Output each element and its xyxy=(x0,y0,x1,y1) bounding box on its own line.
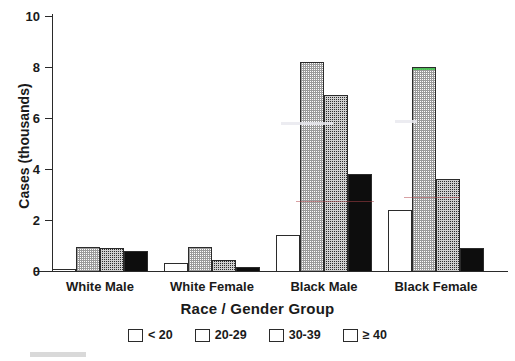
y-axis-tick-label: 6 xyxy=(33,111,40,126)
y-axis-label: Cases (thousands) xyxy=(16,36,32,256)
y-axis-tick-label: 10 xyxy=(26,9,40,24)
light-gray-swatch xyxy=(195,329,210,342)
bar xyxy=(188,247,212,271)
y-axis-tick-label: 8 xyxy=(33,60,40,75)
legend-label: < 20 xyxy=(148,328,173,342)
bar-group xyxy=(276,16,372,271)
x-axis-label: Race / Gender Group xyxy=(0,300,515,317)
bar-group xyxy=(164,16,260,271)
legend-item: 20-29 xyxy=(195,328,247,342)
y-axis-tick xyxy=(45,169,52,170)
y-axis-tick xyxy=(45,118,52,119)
legend-item: 30-39 xyxy=(269,328,321,342)
bar xyxy=(76,247,100,271)
y-axis-tick xyxy=(45,16,52,17)
bar xyxy=(436,179,460,271)
y-axis-tick xyxy=(45,220,52,221)
legend-item: < 20 xyxy=(128,328,173,342)
y-axis-tick-label: 4 xyxy=(33,162,40,177)
bar xyxy=(124,251,148,271)
bar-chart: Cases (thousands) 0246810 White MaleWhit… xyxy=(0,0,515,361)
legend-label: ≥ 40 xyxy=(363,328,387,342)
dark-gray-swatch xyxy=(269,329,284,342)
bar xyxy=(388,210,412,271)
bar xyxy=(164,263,188,271)
bar-group xyxy=(388,16,484,271)
y-axis-tick xyxy=(45,67,52,68)
bar xyxy=(52,269,76,271)
black-swatch xyxy=(343,329,358,342)
y-axis-tick-label: 2 xyxy=(33,213,40,228)
bar xyxy=(300,62,324,271)
legend-item: ≥ 40 xyxy=(343,328,387,342)
x-axis-category-label: Black Female xyxy=(356,279,515,294)
y-axis-tick xyxy=(45,271,52,272)
bar xyxy=(212,260,236,271)
bar xyxy=(236,267,260,271)
white-swatch xyxy=(128,329,143,342)
bar xyxy=(100,248,124,271)
bar xyxy=(412,67,436,271)
legend-label: 20-29 xyxy=(215,328,247,342)
y-axis-tick-label: 0 xyxy=(33,264,40,279)
scan-artifact-smudge xyxy=(30,352,86,357)
bar xyxy=(460,248,484,271)
bar xyxy=(276,235,300,271)
bar xyxy=(324,95,348,271)
chart-legend: < 2020-2930-39≥ 40 xyxy=(0,328,515,342)
legend-label: 30-39 xyxy=(289,328,321,342)
x-axis-line xyxy=(34,271,508,272)
bar xyxy=(348,174,372,271)
bar-group xyxy=(52,16,148,271)
plot-area xyxy=(52,16,500,271)
